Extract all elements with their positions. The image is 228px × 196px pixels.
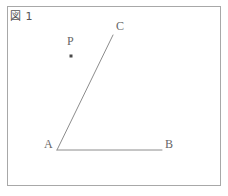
geometry-diagram <box>0 0 228 196</box>
vertex-label-a: A <box>44 138 53 150</box>
point-label-p: P <box>67 35 74 47</box>
vertex-label-b: B <box>165 138 173 150</box>
point-p-marker <box>70 55 73 58</box>
segment-ac <box>57 35 113 150</box>
vertex-label-c: C <box>116 20 124 32</box>
figure-container: 図 1 A B C P <box>0 0 228 196</box>
